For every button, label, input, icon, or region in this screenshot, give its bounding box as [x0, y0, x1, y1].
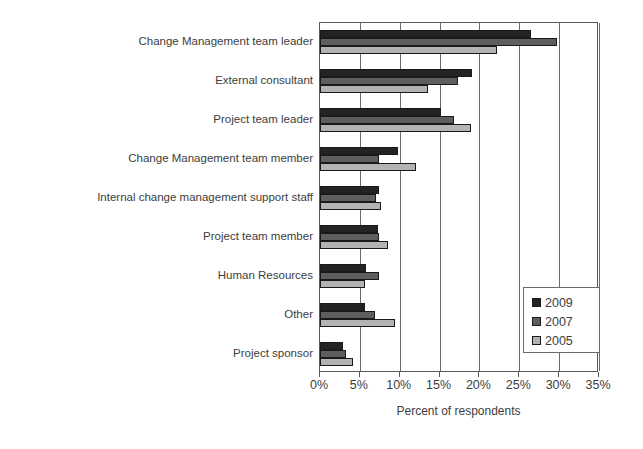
bar-2007	[320, 350, 346, 358]
x-axis-title: Percent of respondents	[319, 404, 598, 418]
category-label: Internal change management support staff	[20, 191, 313, 203]
tickmark	[359, 372, 360, 377]
bar-2009	[320, 264, 366, 272]
bar-2009	[320, 30, 531, 38]
legend-item: 2009	[532, 293, 599, 312]
chart-container: Change Management team leaderExternal co…	[0, 0, 643, 449]
bar-2005	[320, 85, 428, 93]
bar-2007	[320, 38, 557, 46]
category-label: Project team leader	[20, 113, 313, 125]
bar-group	[320, 147, 599, 173]
category-label: Human Resources	[20, 269, 313, 281]
bar-2005	[320, 124, 471, 132]
bar-group	[320, 30, 599, 56]
bar-2009	[320, 342, 343, 350]
bar-2005	[320, 202, 381, 210]
category-label: Change Management team leader	[20, 35, 313, 47]
bar-2007	[320, 116, 454, 124]
tickmark	[439, 372, 440, 377]
tickmark	[319, 372, 320, 377]
bar-2009	[320, 147, 398, 155]
bar-2009	[320, 303, 365, 311]
chart-legend: 200920072005	[523, 287, 600, 353]
bar-group	[320, 108, 599, 134]
legend-swatch-icon	[532, 317, 541, 326]
bar-group	[320, 264, 599, 290]
bar-2009	[320, 69, 472, 77]
tickmark	[518, 372, 519, 377]
bar-2007	[320, 155, 379, 163]
bar-group	[320, 69, 599, 95]
bar-2007	[320, 233, 379, 241]
bar-2007	[320, 194, 376, 202]
bar-2009	[320, 225, 378, 233]
category-label: Change Management team member	[20, 152, 313, 164]
x-axis-tick-labels: 0%5%10%15%20%25%30%35%	[279, 378, 639, 398]
bar-2005	[320, 280, 365, 288]
legend-label: 2007	[545, 315, 573, 329]
category-label: Project team member	[20, 230, 313, 242]
bar-2009	[320, 108, 441, 116]
legend-label: 2009	[545, 296, 573, 310]
legend-item: 2007	[532, 312, 599, 331]
tickmark	[558, 372, 559, 377]
bar-2007	[320, 77, 458, 85]
bar-2007	[320, 272, 379, 280]
category-label: Other	[20, 308, 313, 320]
bar-2009	[320, 186, 379, 194]
bar-group	[320, 186, 599, 212]
category-axis-labels: Change Management team leaderExternal co…	[20, 22, 313, 372]
bar-2005	[320, 163, 416, 171]
bar-group	[320, 225, 599, 251]
bar-2005	[320, 358, 353, 366]
bar-2005	[320, 46, 497, 54]
legend-swatch-icon	[532, 298, 541, 307]
category-label: Project sponsor	[20, 347, 313, 359]
bar-2005	[320, 319, 395, 327]
legend-swatch-icon	[532, 336, 541, 345]
category-label: External consultant	[20, 74, 313, 86]
tickmark	[478, 372, 479, 377]
tickmark	[598, 372, 599, 377]
x-tick-label: 35%	[568, 378, 628, 392]
legend-item: 2005	[532, 331, 599, 350]
tickmark	[399, 372, 400, 377]
legend-label: 2005	[545, 334, 573, 348]
bar-2007	[320, 311, 375, 319]
bar-2005	[320, 241, 388, 249]
